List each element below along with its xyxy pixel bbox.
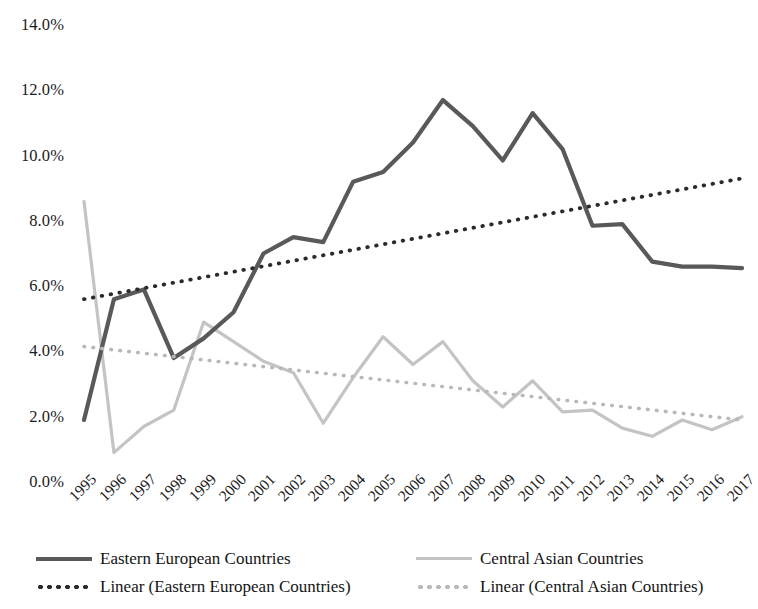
y-axis-tick-label: 8.0% [0, 213, 64, 230]
y-axis: 14.0%12.0%10.0%8.0%6.0%4.0%2.0%0.0% [0, 0, 64, 500]
legend-swatch-dotted-dark-icon [36, 580, 92, 594]
plot-svg [70, 18, 754, 488]
y-axis-tick-label: 4.0% [0, 343, 64, 360]
legend-swatch-solid-light-icon [416, 552, 472, 566]
y-axis-tick-label: 10.0% [0, 148, 64, 165]
series-line-eastern-european-countries [84, 100, 742, 420]
chart-legend: Eastern European Countries Central Asian… [0, 549, 758, 609]
y-axis-tick-label: 2.0% [0, 409, 64, 426]
x-axis: 1995199619971998199920002001200220032004… [0, 485, 758, 547]
y-axis-tick-label: 6.0% [0, 278, 64, 295]
legend-label: Central Asian Countries [480, 549, 643, 568]
legend-label: Eastern European Countries [100, 549, 291, 568]
legend-label: Linear (Eastern European Countries) [100, 577, 351, 596]
legend-item-linear-central-asian-countries[interactable]: Linear (Central Asian Countries) [416, 577, 703, 596]
line-chart: 14.0%12.0%10.0%8.0%6.0%4.0%2.0%0.0% 1995… [0, 0, 758, 609]
legend-row-1: Eastern European Countries Central Asian… [0, 549, 758, 577]
legend-item-linear-eastern-european-countries[interactable]: Linear (Eastern European Countries) [36, 577, 351, 596]
plot-area [70, 18, 754, 488]
y-axis-tick-label: 14.0% [0, 17, 64, 34]
legend-item-central-asian-countries[interactable]: Central Asian Countries [416, 549, 643, 568]
trendline-eastern-european-countries [84, 178, 742, 299]
legend-row-2: Linear (Eastern European Countries) Line… [0, 577, 758, 605]
legend-label: Linear (Central Asian Countries) [480, 577, 703, 596]
legend-swatch-solid-dark-icon [36, 552, 92, 566]
legend-item-eastern-european-countries[interactable]: Eastern European Countries [36, 549, 291, 568]
y-axis-tick-label: 12.0% [0, 82, 64, 99]
legend-swatch-dotted-light-icon [416, 580, 472, 594]
